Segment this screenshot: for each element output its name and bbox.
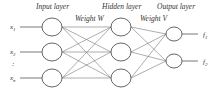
hidden-node-2 bbox=[111, 43, 131, 61]
input-lines bbox=[20, 27, 42, 78]
input-label-x2: x2 bbox=[9, 48, 16, 57]
weight-w-label: Weight W bbox=[75, 14, 104, 23]
input-node-2 bbox=[42, 43, 62, 61]
hidden-layer-nodes bbox=[111, 18, 131, 87]
input-layer-nodes bbox=[42, 18, 62, 87]
neural-network-diagram: Input layer Hidden layer Output layer We… bbox=[0, 0, 220, 93]
output-label-f1: f1 bbox=[203, 31, 207, 40]
input-label-x1: x1 bbox=[9, 23, 16, 32]
hidden-node-3 bbox=[111, 69, 131, 87]
input-label-xn: xn bbox=[9, 74, 16, 83]
hidden-layer-label: Hidden layer bbox=[101, 2, 141, 11]
hidden-node-1 bbox=[111, 18, 131, 36]
output-layer-label: Output layer bbox=[157, 2, 195, 11]
output-node-2 bbox=[166, 54, 182, 68]
ellipsis-dots: : bbox=[12, 60, 14, 68]
output-lines bbox=[182, 34, 198, 61]
output-label-f2: f2 bbox=[203, 58, 208, 67]
weights-w-edges bbox=[62, 27, 111, 78]
output-node-1 bbox=[166, 27, 182, 41]
input-layer-label: Input layer bbox=[35, 2, 69, 11]
weight-v-label: Weight V bbox=[140, 14, 168, 23]
input-node-n bbox=[42, 69, 62, 87]
input-node-1 bbox=[42, 18, 62, 36]
output-layer-nodes bbox=[166, 27, 182, 68]
weights-v-edges bbox=[131, 27, 166, 78]
